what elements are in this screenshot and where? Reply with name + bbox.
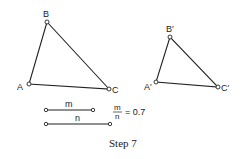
triangle-abc: B A C (17, 9, 119, 95)
ratio-numerator: m (114, 103, 121, 112)
label-a-prime: A′ (144, 82, 152, 92)
triangle-abc-prime-outline (156, 37, 218, 87)
point-c (107, 87, 111, 91)
point-b (45, 20, 49, 24)
ratio-value: = 0.7 (125, 107, 145, 117)
triangle-abc-outline (29, 22, 109, 89)
label-c-prime: C′ (221, 83, 229, 93)
segment-n-label: n (75, 113, 80, 123)
label-b: B (43, 9, 49, 19)
label-c: C (112, 85, 119, 95)
label-a: A (17, 82, 23, 92)
segment-n-start (44, 122, 47, 125)
segment-m-end (91, 108, 94, 111)
segment-m-start (44, 108, 47, 111)
segment-m-label: m (65, 99, 73, 109)
point-a (27, 82, 31, 86)
segment-m: m (44, 99, 94, 112)
ratio-expression: m n = 0.7 (113, 103, 145, 121)
triangle-abc-prime: B′ A′ C′ (144, 24, 229, 93)
step-caption: Step 7 (109, 137, 137, 149)
point-b-prime (168, 35, 172, 39)
diagram-canvas: B A C B′ A′ C′ m n m n = 0.7 Step 7 (0, 0, 242, 159)
segment-n-end (108, 122, 111, 125)
point-a-prime (154, 80, 158, 84)
ratio-denominator: n (115, 112, 119, 121)
label-b-prime: B′ (166, 24, 174, 34)
point-c-prime (216, 85, 220, 89)
segment-n: n (44, 113, 111, 126)
